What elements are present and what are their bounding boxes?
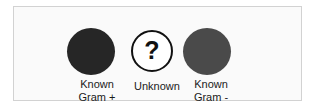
caption-line-2: Gram - [180, 91, 242, 104]
figure-frame: Known Gram + ? Unknown Known Gram - [13, 6, 302, 101]
specimen-caption-gram-negative: Known Gram - [180, 78, 242, 103]
caption-line-1: Unknown [126, 80, 188, 93]
specimen-known-gram-positive: Known Gram + [66, 28, 128, 102]
colony-disc-gray-icon [183, 28, 231, 75]
caption-line-1: Known [66, 78, 128, 91]
colony-disc-dark-icon [67, 28, 115, 75]
specimen-caption-unknown: Unknown [126, 80, 188, 93]
colony-disc-unknown-icon: ? [131, 30, 173, 72]
caption-line-1: Known [180, 78, 242, 91]
question-mark-icon: ? [144, 38, 159, 63]
specimen-caption-gram-positive: Known Gram + [66, 78, 128, 103]
figure-canvas: Known Gram + ? Unknown Known Gram - [0, 0, 322, 109]
specimen-known-gram-negative: Known Gram - [180, 28, 242, 102]
caption-line-2: Gram + [66, 91, 128, 104]
specimen-unknown: ? Unknown [126, 28, 188, 102]
